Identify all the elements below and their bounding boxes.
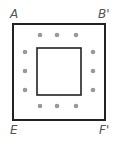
label-b-prime: B' bbox=[98, 7, 110, 21]
dot-top-3 bbox=[74, 33, 79, 38]
dot-bottom-1 bbox=[38, 104, 43, 109]
dot-left-3 bbox=[23, 88, 28, 93]
label-f-prime: F' bbox=[99, 123, 109, 137]
dot-right-2 bbox=[91, 69, 96, 74]
dot-top-1 bbox=[38, 33, 43, 38]
dot-top-2 bbox=[55, 33, 60, 38]
inner-square bbox=[37, 48, 81, 95]
dot-left-1 bbox=[23, 50, 28, 55]
dot-bottom-3 bbox=[74, 104, 79, 109]
nested-squares-diagram: A B' E F' bbox=[0, 0, 119, 149]
dot-right-3 bbox=[91, 88, 96, 93]
dot-bottom-2 bbox=[55, 104, 60, 109]
label-a: A bbox=[9, 7, 18, 21]
dot-group bbox=[23, 33, 96, 109]
diagram-canvas: A B' E F' bbox=[0, 0, 119, 149]
dot-left-2 bbox=[23, 69, 28, 74]
label-e: E bbox=[10, 123, 18, 137]
dot-right-1 bbox=[91, 50, 96, 55]
